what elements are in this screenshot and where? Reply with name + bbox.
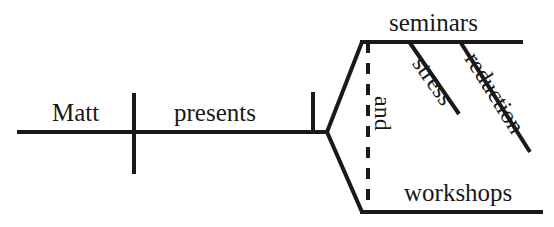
label-object-lower: workshops xyxy=(404,180,512,205)
lower-branch-line xyxy=(327,132,362,212)
label-verb: presents xyxy=(174,100,256,125)
label-object-upper: seminars xyxy=(389,10,478,35)
sentence-diagram: Matt presents seminars workshops and str… xyxy=(0,0,554,227)
upper-branch-line xyxy=(327,42,362,132)
label-subject: Matt xyxy=(52,100,99,125)
label-conjunction: and xyxy=(371,96,395,131)
